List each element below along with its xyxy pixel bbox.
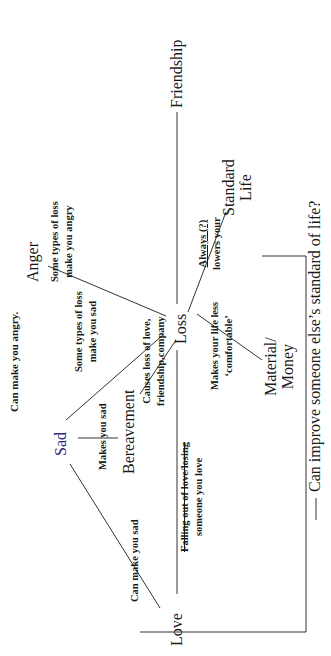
node-sad: Sad	[52, 432, 69, 456]
label-anger-loss-line1: Some types of loss	[48, 201, 62, 282]
edge-love-sad	[70, 464, 160, 608]
label-anger-loss-line2: make you angry	[62, 201, 76, 282]
label-sad-loss: Some types of loss make you sad	[72, 291, 100, 372]
label-bereavement-loss-line1: Causes loss of love,	[140, 316, 154, 406]
label-loss-standard: Always (?) lowers your	[196, 217, 224, 270]
node-standard-life: Standard Life	[220, 159, 254, 216]
label-loss-standard-line1: Always (?)	[196, 217, 210, 270]
label-bereavement-loss: Causes loss of love, friendship,company	[140, 316, 168, 406]
node-love: Love	[168, 613, 185, 646]
label-love-loss: Falling out of love/losing someone you l…	[178, 442, 206, 552]
label-love-loss-line2: someone you love	[192, 442, 206, 552]
node-material-line1: Material/	[262, 337, 279, 396]
question-text: Can improve someone else’s standard of l…	[306, 201, 324, 492]
node-material-money: Material/ Money	[262, 337, 296, 396]
label-sad-bereavement: Makes you sad	[96, 403, 110, 470]
node-friendship: Friendship	[168, 40, 185, 108]
label-loss-standard-line2: lowers your	[210, 217, 224, 270]
node-standard-life-line1: Standard	[220, 159, 237, 216]
node-anger: Anger	[24, 242, 41, 282]
label-loss-material: Makes your life less ‘comfortable’	[208, 302, 236, 390]
label-anger-loss: Some types of loss make you angry	[48, 201, 76, 282]
node-loss: Loss	[172, 314, 189, 344]
label-love-anger: Can make you angry.	[7, 312, 21, 412]
label-loss-material-line2: ‘comfortable’	[222, 302, 236, 390]
mind-map-diagram: Love Sad Bereavement Anger Loss Friendsh…	[0, 0, 331, 656]
label-sad-loss-line1: Some types of loss	[72, 291, 86, 372]
label-sad-loss-line2: make you sad	[86, 291, 100, 372]
label-bereavement-loss-line2: friendship,company	[154, 316, 168, 406]
label-love-sad: Can make you sad	[128, 519, 142, 602]
label-loss-material-line1: Makes your life less	[208, 302, 222, 390]
node-bereavement: Bereavement	[120, 390, 137, 474]
label-love-loss-line1: Falling out of love/losing	[178, 442, 192, 552]
node-material-line2: Money	[279, 337, 296, 396]
node-standard-life-line2: Life	[237, 159, 254, 216]
